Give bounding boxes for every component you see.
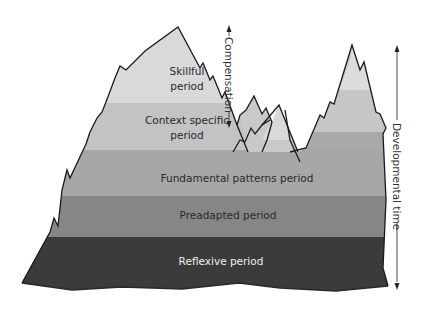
mountain-diagram: Skillful period Context specific period … (0, 0, 422, 311)
label-context-specific-2: period (170, 129, 203, 141)
arrow-down-icon (395, 283, 400, 290)
arrow-up-icon (227, 25, 232, 32)
band-reflexive (0, 237, 422, 311)
label-fundamental: Fundamental patterns period (161, 172, 314, 184)
compensation-label: Compensation (223, 37, 235, 113)
label-preadapted: Preadapted period (180, 209, 277, 221)
developmental-time-label: Developmental time (391, 123, 403, 230)
label-reflexive: Reflexive period (179, 255, 264, 267)
arrow-up-icon (395, 45, 400, 52)
label-skillful-1: Skillful (170, 65, 205, 77)
label-skillful-2: period (170, 80, 203, 92)
label-context-specific-1: Context specific (145, 114, 229, 126)
compensation-arrow: Compensation (223, 25, 235, 128)
developmental-time-arrow: Developmental time (391, 45, 403, 290)
